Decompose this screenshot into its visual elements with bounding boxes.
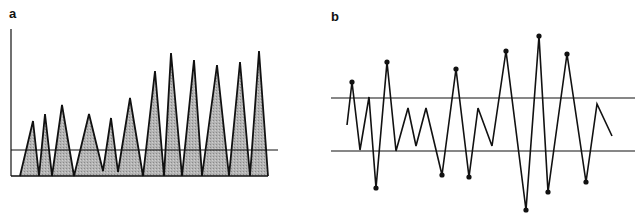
outlier-marker [349,79,354,84]
outlier-marker [384,59,389,64]
panel-a-chart [11,29,278,176]
panel-b-chart [331,33,635,212]
outlier-marker [583,179,588,184]
outlier-marker [523,207,528,212]
outlier-marker [373,185,378,190]
outlier-marker [545,189,550,194]
outlier-marker [439,172,444,177]
outlier-marker [536,33,541,38]
outlier-marker [453,66,458,71]
outlier-marker [466,174,471,179]
outlier-marker [564,51,569,56]
outlier-marker [503,48,508,53]
figure-canvas [0,0,642,220]
